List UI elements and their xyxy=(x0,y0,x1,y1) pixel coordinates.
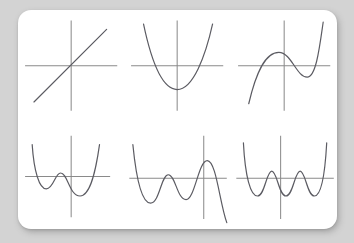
graph-panel-degree-1[interactable] xyxy=(18,10,124,120)
curve-degree-3 xyxy=(248,22,322,104)
graph-panel-degree-5[interactable] xyxy=(124,120,230,230)
curve-degree-4 xyxy=(32,144,99,195)
curve-degree-6 xyxy=(243,142,326,195)
curve-degree-2 xyxy=(144,24,213,90)
graph-svg-degree-6 xyxy=(231,120,337,230)
graph-panel-degree-6[interactable] xyxy=(231,120,337,230)
graph-svg-degree-3 xyxy=(231,10,337,120)
graphs-card xyxy=(18,10,337,229)
graph-svg-degree-1 xyxy=(18,10,124,120)
graph-panel-degree-4[interactable] xyxy=(18,120,124,230)
curve-degree-5 xyxy=(133,144,227,222)
graph-grid xyxy=(18,10,337,229)
graph-panel-degree-3[interactable] xyxy=(231,10,337,120)
graph-panel-degree-2[interactable] xyxy=(124,10,230,120)
graph-svg-degree-5 xyxy=(124,120,230,230)
graph-svg-degree-2 xyxy=(124,10,230,120)
graph-svg-degree-4 xyxy=(18,120,124,230)
